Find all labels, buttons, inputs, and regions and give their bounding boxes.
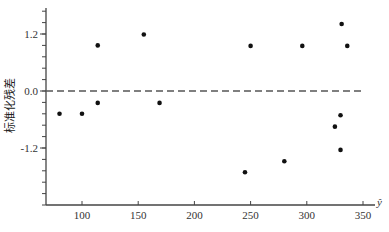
data-point [157, 101, 162, 106]
x-tick-label: 150 [130, 209, 147, 221]
y-tick-label: 1.2 [24, 28, 38, 40]
y-axis: 1.20.0-1.2 [21, 8, 46, 205]
x-tick-label: 300 [299, 209, 316, 221]
data-points [57, 22, 349, 175]
data-point [95, 101, 100, 106]
data-point [95, 43, 100, 48]
data-point [300, 44, 305, 49]
data-point [57, 112, 62, 117]
data-point [338, 113, 343, 118]
data-point [142, 32, 147, 37]
data-point [80, 112, 85, 117]
x-tick-label: 200 [186, 209, 203, 221]
data-point [345, 44, 350, 49]
x-tick-label: 100 [74, 209, 91, 221]
data-point [248, 44, 253, 49]
data-point [282, 159, 287, 164]
data-point [338, 148, 343, 153]
y-tick-label: -1.2 [21, 142, 38, 154]
data-point [243, 170, 248, 175]
x-tick-label: 250 [242, 209, 259, 221]
data-point [333, 124, 338, 129]
residual-scatter-plot: 1.20.0-1.2 100150200250300350 标准化残差 ŷ [0, 0, 389, 232]
x-axis: 100150200250300350 [46, 201, 375, 221]
data-point [339, 22, 344, 27]
x-axis-label: ŷ [376, 196, 382, 208]
y-axis-label: 标准化残差 [3, 78, 16, 133]
y-tick-label: 0.0 [24, 85, 38, 97]
x-tick-label: 350 [355, 209, 372, 221]
